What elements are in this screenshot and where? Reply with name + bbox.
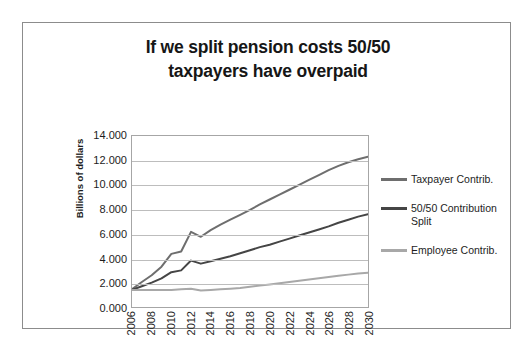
x-axis-tick-label: 2028 — [343, 311, 355, 335]
x-axis-tick-label: 2022 — [284, 311, 296, 335]
x-axis-tick-label: 2012 — [185, 311, 197, 335]
gridline — [132, 185, 368, 186]
y-axis-tick-label: 10.000 — [65, 178, 127, 190]
x-axis-tick-label: 2030 — [363, 311, 375, 335]
legend-label: Taxpayer Contrib. — [411, 173, 493, 186]
x-axis-tick-label: 2008 — [145, 311, 157, 335]
x-axis-tick-label: 2024 — [304, 311, 316, 335]
x-axis-tick-label: 2010 — [165, 311, 177, 335]
legend-item[interactable]: 50/50 ContributionSplit — [381, 202, 526, 228]
y-axis-tick-label: 0.000 — [65, 302, 127, 314]
legend-color-swatch — [381, 178, 407, 181]
chart-title-line-1: If we split pension costs 50/50 — [146, 37, 391, 57]
gridline — [132, 161, 368, 162]
x-axis-tick-label: 2006 — [125, 311, 137, 335]
y-axis-tick-label: 2.000 — [65, 277, 127, 289]
gridline — [132, 235, 368, 236]
y-axis-tick-label: 14.000 — [65, 129, 127, 141]
legend-item[interactable]: Taxpayer Contrib. — [381, 173, 526, 186]
x-axis-tick-label: 2020 — [264, 311, 276, 335]
legend-item[interactable]: Employee Contrib. — [381, 244, 526, 257]
y-axis-tick-label: 4.000 — [65, 253, 127, 265]
y-axis-tick-labels: 14.00012.00010.0008.0006.0004.0002.0000.… — [61, 135, 127, 308]
chart-legend: Taxpayer Contrib.50/50 ContributionSplit… — [381, 173, 526, 273]
x-axis-tick-label: 2018 — [244, 311, 256, 335]
chart-title-line-2: taxpayers have overpaid — [63, 59, 473, 83]
y-axis-tick-label: 6.000 — [65, 228, 127, 240]
plot-area — [131, 135, 369, 308]
x-axis-tick-label: 2014 — [204, 311, 216, 335]
x-axis-tick-label: 2026 — [323, 311, 335, 335]
gridline — [132, 210, 368, 211]
gridline — [132, 284, 368, 285]
legend-label: 50/50 ContributionSplit — [411, 202, 497, 228]
legend-color-swatch — [381, 249, 407, 252]
chart-frame: If we split pension costs 50/50 taxpayer… — [22, 22, 511, 329]
gridline — [132, 260, 368, 261]
series-line — [132, 157, 368, 290]
chart-title: If we split pension costs 50/50 taxpayer… — [63, 35, 473, 83]
y-axis-tick-label: 8.000 — [65, 203, 127, 215]
legend-color-swatch — [381, 207, 407, 210]
series-line — [132, 214, 368, 290]
x-axis-tick-labels: 2006200820102012201420162018202020222024… — [131, 311, 369, 350]
y-axis-tick-label: 12.000 — [65, 154, 127, 166]
x-axis-tick-label: 2016 — [224, 311, 236, 335]
legend-label: Employee Contrib. — [411, 244, 497, 257]
